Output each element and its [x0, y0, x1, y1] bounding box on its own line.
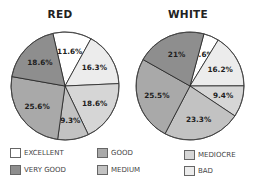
- legend-item-excellent: EXCELLENT: [10, 148, 64, 158]
- slice-value-label: 11.6%: [57, 47, 83, 56]
- slice-value-label: 18.6%: [27, 58, 53, 67]
- legend-swatch: [10, 165, 21, 175]
- slice-value-label: 23.3%: [186, 115, 212, 124]
- slice-value-label: 9.3%: [60, 116, 81, 125]
- red-pie-chart: 11.6%16.3%18.6%9.3%25.6%18.6%: [9, 30, 121, 142]
- legend-label: VERY GOOD: [24, 166, 66, 174]
- legend-item-bad: BAD: [184, 166, 213, 176]
- legend-label: GOOD: [111, 149, 133, 157]
- legend-label: BAD: [198, 167, 213, 175]
- red-chart-title: RED: [20, 8, 100, 20]
- legend-swatch: [97, 148, 108, 158]
- white-chart-title: WHITE: [148, 8, 228, 20]
- legend-item-good: GOOD: [97, 148, 133, 158]
- slice-value-label: 16.2%: [207, 65, 233, 74]
- legend-item-mediocre: MEDIOCRE: [184, 150, 236, 160]
- white-pie-chart: 4.6%16.2%9.4%23.3%25.5%21%: [134, 30, 246, 142]
- legend-swatch: [184, 166, 195, 176]
- legend-label: MEDIOCRE: [198, 151, 236, 159]
- slice-value-label: 25.5%: [144, 91, 170, 100]
- slice-value-label: 25.6%: [24, 102, 50, 111]
- legend-label: MEDIUM: [111, 166, 140, 174]
- legend-item-medium: MEDIUM: [97, 165, 140, 175]
- slice-value-label: 9.4%: [213, 91, 234, 100]
- slice-value-label: 18.6%: [82, 99, 108, 108]
- slice-value-label: 21%: [168, 50, 186, 59]
- slice-value-label: 16.3%: [82, 63, 108, 72]
- legend-swatch: [184, 150, 195, 160]
- legend-swatch: [97, 165, 108, 175]
- legend-swatch: [10, 148, 21, 158]
- legend-item-very-good: VERY GOOD: [10, 165, 66, 175]
- legend-label: EXCELLENT: [24, 149, 64, 157]
